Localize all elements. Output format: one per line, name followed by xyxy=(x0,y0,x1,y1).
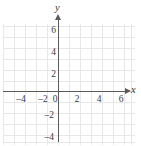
gridline-horizontal xyxy=(3,135,135,136)
gridline-vertical xyxy=(91,24,92,145)
y-axis-label: y xyxy=(55,2,60,13)
y-axis-tick-label: –2 xyxy=(38,110,54,120)
gridline-horizontal xyxy=(3,59,135,60)
gridline-vertical xyxy=(69,24,70,145)
gridline-vertical xyxy=(102,24,103,145)
x-axis-label: x xyxy=(131,84,136,95)
x-axis-tick-label: 0 xyxy=(47,94,63,104)
gridline-vertical xyxy=(124,24,125,145)
gridline-vertical xyxy=(3,24,4,145)
x-axis-tick-label: 6 xyxy=(113,94,129,104)
x-axis-tick-label: 4 xyxy=(91,94,107,104)
gridline-horizontal xyxy=(3,81,135,82)
gridline-horizontal xyxy=(3,113,135,114)
x-axis-tick-label: 2 xyxy=(69,94,85,104)
gridline-horizontal xyxy=(3,124,135,125)
y-axis-tick-label: 4 xyxy=(40,47,56,57)
gridline-horizontal xyxy=(3,37,135,38)
y-axis-tick-label: –4 xyxy=(38,132,54,142)
gridline-vertical xyxy=(113,24,114,145)
gridline-vertical xyxy=(47,24,48,145)
x-axis-line xyxy=(3,91,127,92)
coordinate-plane-figure: –4–20246 642–2–4 x y xyxy=(0,0,141,146)
gridline-horizontal xyxy=(3,26,135,27)
y-axis-tick-label: 6 xyxy=(40,25,56,35)
gridline-vertical xyxy=(25,24,26,145)
gridline-horizontal xyxy=(3,142,135,143)
gridline-horizontal xyxy=(3,70,135,71)
gridline-vertical xyxy=(80,24,81,145)
gridline-vertical xyxy=(14,24,15,145)
y-axis-arrow-icon xyxy=(55,14,61,20)
x-axis-tick-label: –4 xyxy=(13,94,29,104)
grid-background xyxy=(3,24,135,145)
gridline-horizontal xyxy=(3,48,135,49)
y-axis-tick-label: 2 xyxy=(40,69,56,79)
gridline-vertical xyxy=(36,24,37,145)
y-axis-line xyxy=(58,19,59,142)
